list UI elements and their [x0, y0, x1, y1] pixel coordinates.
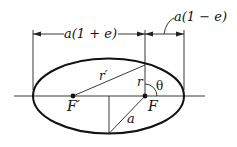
focus-right-point: [143, 94, 148, 99]
label-focus-right: F: [148, 99, 158, 113]
ellipse-orbit-diagram: a(1 + e) a(1 − e) r′ r θ F′ F a: [0, 0, 237, 147]
label-a-one-minus-e: a(1 − e): [174, 10, 227, 23]
label-r-prime: r′: [99, 70, 107, 82]
label-r: r: [137, 76, 143, 88]
arrowhead-icon: [145, 32, 153, 37]
label-theta: θ: [156, 80, 163, 92]
label-a: a: [127, 112, 135, 125]
label-a-one-plus-e: a(1 + e): [64, 27, 117, 40]
label-focus-left: F′: [67, 99, 80, 113]
arrowhead-icon: [137, 32, 145, 37]
arrowhead-icon: [176, 32, 184, 37]
label-leader-line: [164, 18, 174, 34]
segment-r-prime: [73, 65, 145, 96]
arrowhead-icon: [33, 32, 41, 37]
